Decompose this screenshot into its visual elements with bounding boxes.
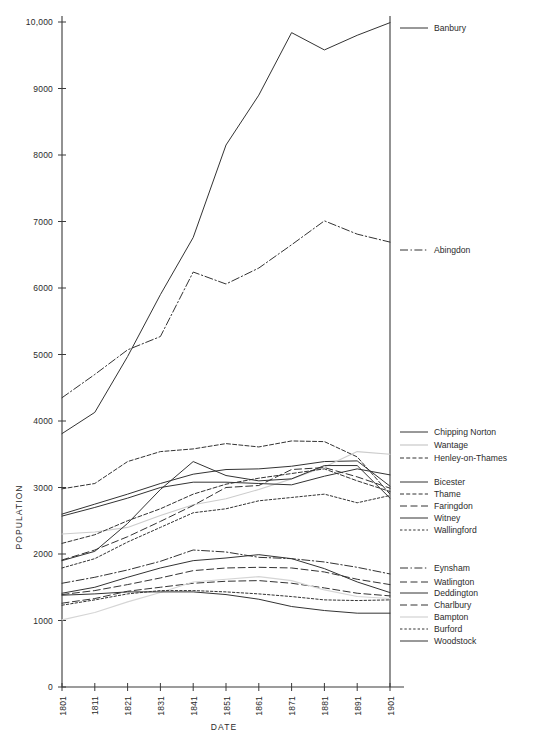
x-axis-title: DATE bbox=[211, 722, 237, 732]
series-line-henley-on-thames bbox=[62, 441, 390, 494]
y-axis-tick-label: 10,000 bbox=[26, 17, 53, 27]
x-axis-tick-label: 1831 bbox=[156, 696, 166, 716]
x-axis-tick-label: 1821 bbox=[123, 696, 133, 716]
axis-frame bbox=[62, 16, 404, 687]
legend-layer: BanburyAbingdonChipping NortonWantageHen… bbox=[400, 23, 507, 646]
x-axis-tick-label: 1841 bbox=[189, 696, 199, 716]
legend-label-watlington[interactable]: Watlington bbox=[434, 577, 475, 587]
labels-layer: 010002000300040005000600070008000900010,… bbox=[14, 17, 396, 732]
y-axis-title: POPULATION bbox=[14, 484, 24, 549]
series-line-thame bbox=[62, 469, 390, 543]
y-axis-tick-label: 0 bbox=[48, 682, 53, 692]
x-axis-tick-label: 1851 bbox=[222, 696, 232, 716]
series-line-abingdon bbox=[62, 221, 390, 398]
y-axis-tick-label: 6000 bbox=[33, 283, 53, 293]
y-axis-tick-label: 8000 bbox=[33, 150, 53, 160]
series-line-bicester bbox=[62, 462, 390, 561]
x-axis-tick-label: 1871 bbox=[287, 696, 297, 716]
legend-label-woodstock[interactable]: Woodstock bbox=[434, 636, 477, 646]
y-axis-tick-label: 4000 bbox=[33, 416, 53, 426]
legend-label-wantage[interactable]: Wantage bbox=[434, 440, 468, 450]
legend-label-wallingford[interactable]: Wallingford bbox=[434, 525, 477, 535]
x-axis-tick-label: 1861 bbox=[254, 696, 264, 716]
x-axis-tick-label: 1891 bbox=[353, 696, 363, 716]
y-axis-tick-label: 1000 bbox=[33, 616, 53, 626]
legend-label-charlbury[interactable]: Charlbury bbox=[434, 600, 472, 610]
x-axis-tick-label: 1801 bbox=[58, 696, 68, 716]
series-line-faringdon bbox=[62, 468, 390, 560]
series-line-woodstock bbox=[62, 592, 390, 613]
legend-label-bicester[interactable]: Bicester bbox=[434, 477, 465, 487]
series-line-wallingford bbox=[62, 494, 390, 568]
series-line-wantage bbox=[62, 452, 390, 534]
legend-label-henley-on-thames[interactable]: Henley-on-Thames bbox=[434, 453, 507, 463]
legend-label-burford[interactable]: Burford bbox=[434, 624, 462, 634]
series-line-banbury bbox=[62, 23, 390, 434]
y-axis-tick-label: 3000 bbox=[33, 483, 53, 493]
axes-layer bbox=[58, 16, 404, 691]
legend-label-bampton[interactable]: Bampton bbox=[434, 612, 469, 622]
y-axis-tick-label: 5000 bbox=[33, 350, 53, 360]
y-axis-tick-label: 9000 bbox=[33, 84, 53, 94]
x-axis-tick-label: 1881 bbox=[320, 696, 330, 716]
x-axis-tick-label: 1901 bbox=[386, 696, 396, 716]
legend-label-eynsham[interactable]: Eynsham bbox=[434, 563, 470, 573]
series-layer bbox=[62, 23, 390, 620]
series-line-bampton bbox=[62, 577, 390, 620]
x-axis-tick-label: 1811 bbox=[90, 696, 100, 715]
y-axis-tick-label: 7000 bbox=[33, 217, 53, 227]
chart-canvas: 010002000300040005000600070008000900010,… bbox=[0, 0, 533, 747]
legend-label-deddington[interactable]: Deddington bbox=[434, 588, 478, 598]
population-line-chart: 010002000300040005000600070008000900010,… bbox=[0, 0, 533, 747]
series-line-eynsham bbox=[62, 550, 390, 583]
legend-label-thame[interactable]: Thame bbox=[434, 489, 461, 499]
legend-label-abingdon[interactable]: Abingdon bbox=[434, 245, 471, 255]
series-line-watlington bbox=[62, 567, 390, 594]
legend-label-chipping-norton[interactable]: Chipping Norton bbox=[434, 427, 496, 437]
y-axis-tick-label: 2000 bbox=[33, 549, 53, 559]
legend-label-faringdon[interactable]: Faringdon bbox=[434, 501, 473, 511]
legend-label-banbury[interactable]: Banbury bbox=[434, 23, 467, 33]
legend-label-witney[interactable]: Witney bbox=[434, 513, 461, 523]
